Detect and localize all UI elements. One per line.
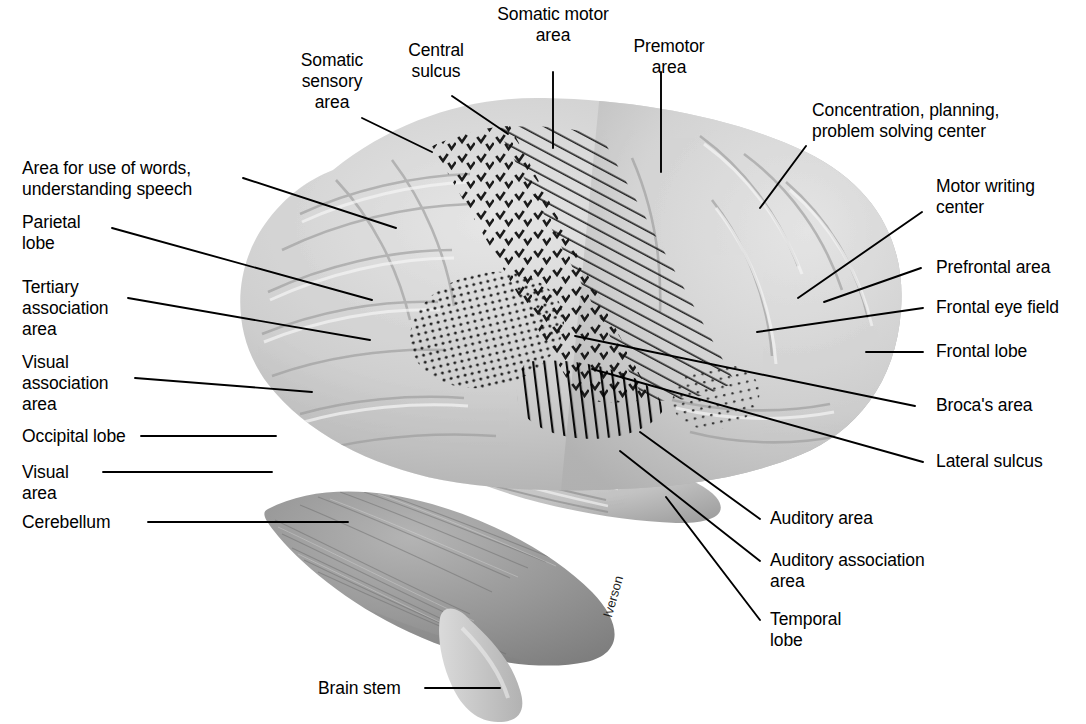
label-prefrontal-area: Prefrontal area [936,257,1050,278]
label-frontal-lobe: Frontal lobe [936,341,1027,362]
label-visual-area: Visual area [22,462,69,504]
cerebellum-shape [250,487,615,700]
label-temporal-lobe: Temporal lobe [770,609,841,651]
label-brocas-area: Broca's area [936,395,1033,416]
label-motor-writing-center: Motor writing center [936,176,1035,218]
cerebrum-shape [240,90,960,520]
label-cerebellum: Cerebellum [22,512,110,533]
label-occipital-lobe: Occipital lobe [22,426,126,447]
label-brain-stem: Brain stem [318,678,401,699]
label-somatic-sensory-area: Somatic sensory area [290,50,374,113]
label-concentration-planning-center: Concentration, planning, problem solving… [812,100,999,142]
label-frontal-eye-field: Frontal eye field [936,297,1059,318]
label-central-sulcus: Central sulcus [392,40,480,82]
label-somatic-motor-area: Somatic motor area [476,4,630,46]
label-lateral-sulcus: Lateral sulcus [936,451,1043,472]
label-auditory-area: Auditory area [770,508,873,529]
label-tertiary-association-area: Tertiary association area [22,277,108,340]
label-area-for-use-of-words: Area for use of words, understanding spe… [22,158,192,200]
label-auditory-association-area: Auditory association area [770,550,925,592]
figure-canvas: Somatic sensory area Central sulcus Soma… [0,0,1086,724]
label-visual-association-area: Visual association area [22,352,108,415]
label-premotor-area: Premotor area [620,36,718,78]
label-parietal-lobe: Parietal lobe [22,212,81,254]
